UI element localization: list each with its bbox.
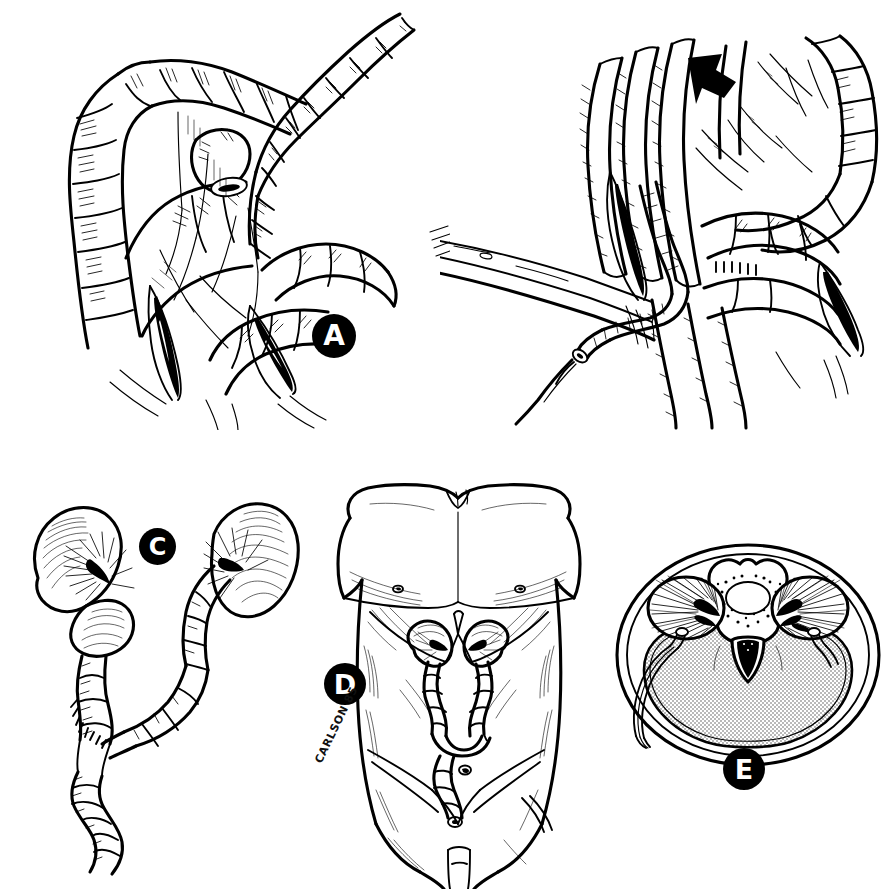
panel-a: A: [0, 0, 450, 430]
panel-b: B: [440, 0, 896, 430]
panel-label-c: C: [139, 528, 176, 565]
panel-e: E: [600, 520, 896, 820]
panel-label-e: E: [723, 748, 765, 790]
panel-label-a: A: [312, 314, 356, 358]
panel-d: D CARLSON 85: [310, 460, 630, 889]
panel-c: C: [10, 470, 320, 880]
figure-canvas: A: [0, 0, 896, 889]
